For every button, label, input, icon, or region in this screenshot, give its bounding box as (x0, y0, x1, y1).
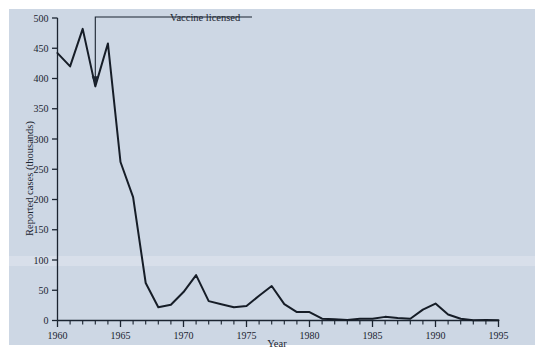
y-tick-label: 400 (34, 73, 49, 84)
data-series-line (58, 29, 499, 320)
y-tick-label: 450 (34, 43, 49, 54)
y-tick-label: 100 (34, 255, 49, 266)
y-tick-label: 300 (34, 134, 49, 145)
y-tick-label: 0 (44, 315, 49, 326)
x-axis-title: Year (267, 338, 287, 349)
x-tick-label: 1980 (300, 330, 320, 341)
x-tick-label: 1985 (363, 330, 383, 341)
y-tick-label: 50 (39, 285, 49, 296)
measles-cases-line-chart: 050100150200250300350400450500 196019651… (0, 0, 544, 360)
x-tick-label: 1965 (111, 330, 131, 341)
annotation-leader-line (95, 17, 252, 77)
y-tick-label: 250 (34, 164, 49, 175)
x-tick-label: 1990 (426, 330, 446, 341)
y-tick-label: 150 (34, 224, 49, 235)
y-axis-ticks: 050100150200250300350400450500 (34, 13, 58, 327)
x-tick-label: 1975 (237, 330, 257, 341)
x-tick-label: 1960 (48, 330, 68, 341)
y-tick-label: 350 (34, 103, 49, 114)
figure-page: 050100150200250300350400450500 196019651… (0, 0, 544, 360)
y-tick-label: 500 (34, 13, 49, 24)
y-axis-title: Reported cases (thousands) (24, 121, 36, 236)
y-tick-label: 200 (34, 194, 49, 205)
x-tick-label: 1995 (489, 330, 509, 341)
annotation-vaccine-licensed: Vaccine licensed (92, 12, 252, 85)
annotation-label: Vaccine licensed (170, 12, 241, 23)
x-tick-label: 1970 (174, 330, 194, 341)
